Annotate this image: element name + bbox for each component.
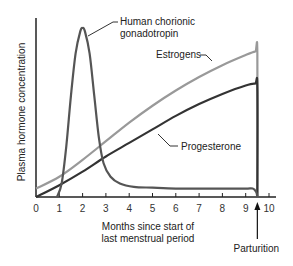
x-axis-label: Months since start of	[102, 221, 194, 232]
hcg-leader-line	[88, 22, 118, 36]
x-tick-label: 1	[57, 203, 63, 214]
x-tick-label: 0	[33, 203, 39, 214]
progesterone-line	[36, 78, 258, 197]
y-axis-label: Plasma hormone concentration	[16, 43, 27, 181]
estrogens-label: Estrogens	[156, 49, 201, 60]
hcg-label: gonadotropin	[120, 28, 178, 39]
parturition-arrow-head	[254, 202, 260, 210]
x-tick-label: 9	[243, 203, 249, 214]
x-tick-label: 8	[220, 203, 226, 214]
x-axis-label: last menstrual period	[102, 233, 195, 244]
x-tick-label: 2	[80, 203, 86, 214]
x-tick-label: 10	[263, 203, 275, 214]
parturition-label: Parturition	[234, 243, 280, 254]
series-group	[36, 28, 258, 197]
hormone-chart: 012345678910 Months since start oflast m…	[0, 0, 293, 266]
x-tick-label: 3	[103, 203, 109, 214]
x-tick-label: 7	[196, 203, 202, 214]
progesterone-leader-line	[158, 134, 178, 146]
progesterone-label: Progesterone	[181, 141, 241, 152]
hcg-label: Human chorionic	[120, 16, 195, 27]
labels-group: Months since start oflast menstrual peri…	[16, 16, 279, 254]
x-tick-label: 4	[126, 203, 132, 214]
x-tick-label: 5	[150, 203, 156, 214]
estrogens-leader-line	[200, 55, 212, 61]
x-tick-label: 6	[173, 203, 179, 214]
